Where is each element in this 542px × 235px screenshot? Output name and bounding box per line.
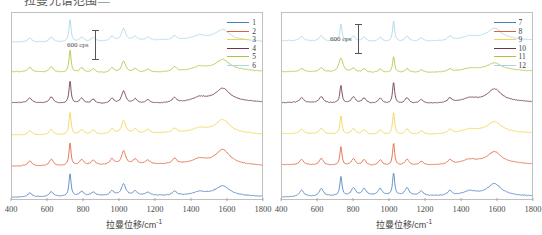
spectrum-line-9 [282,113,532,134]
spectrum-line-7 [282,173,532,197]
x-tick-label-1600: 1600 [219,204,236,214]
legend-item-8[interactable]: 8 [494,28,523,36]
x-tick-label-400: 400 [275,204,288,214]
x-axis-title-text-left: 拉曼位移/cm [106,220,157,230]
legend-swatch-icon-9 [494,39,516,40]
x-tick-label-1800: 1800 [525,204,542,214]
x-tick-label-1600: 1600 [489,204,506,214]
legend-label-11: 11 [519,53,526,61]
legend-swatch-icon-5 [227,56,249,57]
plot-area-left: 600 cps 123456 [11,12,263,200]
scale-bar-left: 600 cps [67,30,99,60]
legend-swatch-icon-8 [494,31,516,32]
spectrum-line-10 [282,83,532,103]
legend-label-10: 10 [519,45,527,53]
x-tick-label-600: 600 [311,204,324,214]
scale-bar-label-left: 600 cps [67,41,89,49]
plot-area-right: 600 cps 789101112 [281,12,533,200]
legend-label-1: 1 [252,19,256,27]
legend-item-5[interactable]: 5 [227,53,256,61]
scale-bar-label-right: 600 cps [330,35,352,43]
legend-item-12[interactable]: 12 [494,62,527,70]
legend-label-9: 9 [519,36,523,44]
spectrum-line-4 [12,81,262,103]
legend-item-2[interactable]: 2 [227,28,256,36]
x-axis-title-exponent-left: -1 [156,218,162,225]
spectra-lines-left [12,13,262,199]
x-tick-label-1400: 1400 [453,204,470,214]
legend-label-12: 12 [519,62,527,70]
x-tick-label-400: 400 [5,204,18,214]
x-tick-label-1000: 1000 [111,204,128,214]
legend-swatch-icon-6 [227,65,249,66]
x-axis-title-left: 拉曼位移/cm-1 [0,218,268,231]
legend-swatch-icon-2 [227,31,249,32]
legend-item-9[interactable]: 9 [494,36,523,44]
legend-item-7[interactable]: 7 [494,19,523,27]
x-tick-label-800: 800 [347,204,360,214]
legend-swatch-icon-11 [494,56,516,57]
spectrum-line-3 [12,112,262,135]
legend-swatch-icon-10 [494,48,516,49]
spectrum-line-2 [12,143,262,166]
legend-label-7: 7 [519,19,523,27]
legend-swatch-icon-7 [494,22,516,23]
spectrum-line-5 [12,50,262,72]
chart-panel-left: 600 cps 123456 4006008001000120014001600… [0,8,268,235]
legend-swatch-icon-4 [227,48,249,49]
legend-swatch-icon-12 [494,65,516,66]
legend-swatch-icon-3 [227,39,249,40]
spectrum-line-8 [282,144,532,166]
x-axis-title-text-right: 拉曼位移/cm [376,220,427,230]
scale-bar-glyph-left [92,30,99,60]
legend-label-6: 6 [252,62,256,70]
legend-item-3[interactable]: 3 [227,36,256,44]
x-tick-label-1800: 1800 [255,204,272,214]
legend-item-10[interactable]: 10 [494,45,527,53]
legend-item-1[interactable]: 1 [227,19,256,27]
x-tick-label-1200: 1200 [147,204,164,214]
chart-panel-right: 600 cps 789101112 4006008001000120014001… [270,8,538,235]
legend-right: 789101112 [494,19,527,69]
legend-swatch-icon-1 [227,22,249,23]
x-tick-label-1000: 1000 [381,204,398,214]
legend-item-6[interactable]: 6 [227,62,256,70]
legend-left: 123456 [227,19,256,69]
spectrum-line-1 [12,174,262,198]
x-tick-label-800: 800 [77,204,90,214]
legend-label-2: 2 [252,28,256,36]
x-tick-labels-left: 40060080010001200140016001800 [0,204,268,218]
x-tick-label-600: 600 [41,204,54,214]
x-tick-labels-right: 40060080010001200140016001800 [270,204,538,218]
legend-item-11[interactable]: 11 [494,53,526,61]
x-axis-title-right: 拉曼位移/cm-1 [270,218,538,231]
scale-bar-glyph-right [355,24,362,54]
legend-label-8: 8 [519,28,523,36]
legend-label-4: 4 [252,45,256,53]
x-tick-label-1200: 1200 [417,204,434,214]
x-axis-title-exponent-right: -1 [426,218,432,225]
scale-bar-right: 600 cps [330,24,362,54]
legend-label-5: 5 [252,53,256,61]
x-tick-label-1400: 1400 [183,204,200,214]
legend-item-4[interactable]: 4 [227,45,256,53]
spectrum-line-6 [12,20,262,42]
legend-label-3: 3 [252,36,256,44]
